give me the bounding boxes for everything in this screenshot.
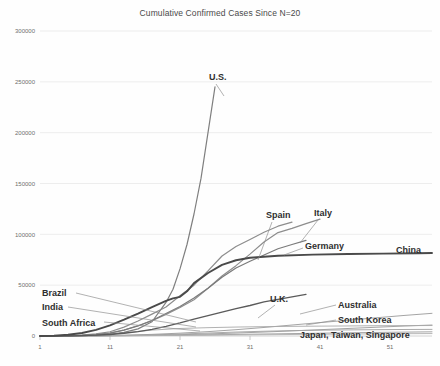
chart-plot-area: 0500001000001500002000002500003000001112…	[0, 0, 440, 366]
series-label-india: India	[42, 302, 63, 312]
series-label-japan-taiwan-singapore: Japan, Taiwan, Singapore	[300, 330, 410, 340]
series-label-u-k: U.K.	[270, 294, 288, 304]
y-axis-tick-label: 200000	[15, 130, 36, 136]
leader-line-italy	[300, 220, 318, 243]
x-axis-tick-label: 31	[247, 344, 254, 350]
y-axis-tick-label: 100000	[15, 232, 36, 238]
x-axis-tick-label: 11	[107, 344, 114, 350]
x-axis-tick-label: 41	[317, 344, 324, 350]
leader-line-germany	[284, 248, 303, 255]
y-axis-tick-label: 300000	[15, 28, 36, 34]
series-line-u-k	[40, 294, 306, 336]
y-axis-tick-label: 250000	[15, 79, 36, 85]
series-label-south-korea: South Korea	[338, 315, 392, 325]
series-label-italy: Italy	[314, 208, 332, 218]
leader-line-u-k	[258, 305, 275, 318]
leader-line-south-korea	[306, 320, 336, 325]
y-axis-tick-label: 0	[32, 333, 36, 339]
series-label-brazil: Brazil	[42, 288, 67, 298]
y-axis-tick-label: 150000	[15, 181, 36, 187]
series-label-germany: Germany	[305, 241, 344, 251]
series-label-south-africa: South Africa	[42, 318, 95, 328]
series-label-australia: Australia	[338, 300, 377, 310]
series-label-china: China	[396, 245, 421, 255]
x-axis-tick-label: 1	[38, 344, 42, 350]
y-axis-tick-label: 50000	[18, 282, 35, 288]
leader-line-u-s	[216, 84, 224, 96]
series-label-spain: Spain	[266, 210, 291, 220]
series-line-u-s	[40, 87, 215, 336]
series-label-u-s: U.S.	[209, 72, 227, 82]
leader-line-australia	[300, 305, 336, 314]
x-axis-tick-label: 51	[387, 344, 394, 350]
x-axis-tick-label: 21	[177, 344, 184, 350]
chart-container: Cumulative Confirmed Cases Since N=20 05…	[0, 0, 440, 366]
